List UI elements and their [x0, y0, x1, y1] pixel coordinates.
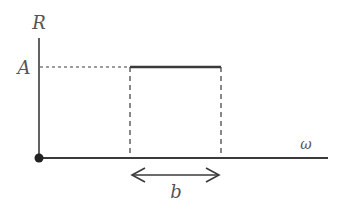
width-arrow: [132, 168, 219, 182]
width-label: b: [170, 181, 182, 202]
x-axis-label: ω: [300, 136, 312, 152]
y-axis-label: R: [31, 12, 46, 33]
origin-dot: [35, 154, 44, 163]
amplitude-label: A: [16, 57, 31, 78]
pulse-diagram: R A ω b: [0, 0, 350, 222]
